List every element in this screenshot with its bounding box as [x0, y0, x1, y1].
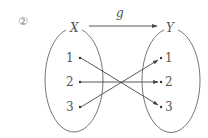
function-label: g [116, 6, 124, 20]
set-y-label: Y [166, 21, 175, 35]
x-dot-2 [79, 81, 81, 83]
set-x-label: X [69, 21, 79, 35]
y-element-1: 1 [165, 51, 173, 65]
mapping-arrow-3-to-1 [81, 60, 158, 107]
y-dot-2 [160, 81, 162, 83]
set-x-ellipse [45, 30, 103, 132]
mapping-arrow-1-to-3 [81, 58, 158, 105]
x-element-3: 3 [66, 100, 74, 114]
y-element-3: 3 [165, 100, 173, 114]
problem-number: ② [18, 15, 28, 28]
x-element-1: 1 [66, 51, 74, 65]
x-dot-3 [79, 106, 81, 108]
y-dot-3 [160, 106, 162, 108]
function-mapping-diagram: ② X Y g 1 2 3 1 2 3 [0, 0, 208, 138]
y-dot-1 [160, 57, 162, 59]
x-element-2: 2 [66, 75, 74, 89]
y-element-2: 2 [165, 75, 173, 89]
x-dot-1 [79, 57, 81, 59]
